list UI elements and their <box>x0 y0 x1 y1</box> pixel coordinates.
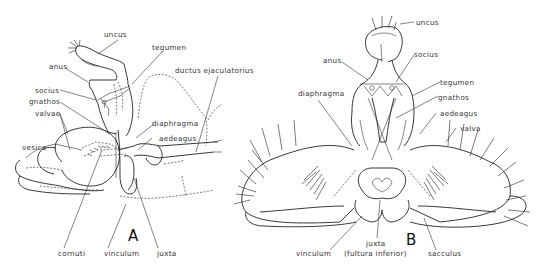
label-cornuti: cornuti <box>58 249 85 258</box>
label-juxta-b: juxta <box>365 239 386 248</box>
label-gnathos-b: gnathos <box>438 93 469 102</box>
label-socius-b: socius <box>414 50 438 59</box>
label-uncus-a: uncus <box>104 30 127 39</box>
label-fultura-inferior: (fultura inferior) <box>344 249 407 258</box>
label-aedeagus-b: aedeagus <box>440 109 477 118</box>
label-aedeagus-a: aedeagus <box>159 134 196 143</box>
label-vinculum-b: vinculum <box>296 249 331 258</box>
label-socius-a: socius <box>35 86 59 95</box>
label-vesica: vesica <box>22 143 47 152</box>
label-anus-b: anus <box>323 56 341 65</box>
label-valva: valva <box>460 124 481 133</box>
label-juxta-a: juxta <box>156 249 177 258</box>
leader-uncus <box>98 40 118 54</box>
label-tegumen-b: tegumen <box>440 78 474 87</box>
label-uncus-b: uncus <box>416 18 439 27</box>
label-valvae: valvae <box>35 109 61 118</box>
label-diaphragma-b: diaphragma <box>298 89 344 98</box>
label-diaphragma-a: diaphragma <box>152 119 198 128</box>
label-sacculus: sacculus <box>428 249 461 258</box>
panel-a: uncus tegumen anus ductus ejaculatorius … <box>16 30 254 258</box>
genitalia-diagram: uncus tegumen anus ductus ejaculatorius … <box>0 0 542 270</box>
label-ductus-ejaculatorius: ductus ejaculatorius <box>175 66 254 75</box>
label-vinculum-a: vinculum <box>104 249 139 258</box>
panel-letter-a: A <box>128 227 139 245</box>
label-tegumen-a: tegumen <box>152 43 186 52</box>
panel-letter-b: B <box>406 231 416 249</box>
panel-b: uncus socius anus tegumen diaphragma gna… <box>234 16 530 258</box>
label-anus-a: anus <box>49 62 67 71</box>
label-gnathos-a: gnathos <box>29 97 60 106</box>
